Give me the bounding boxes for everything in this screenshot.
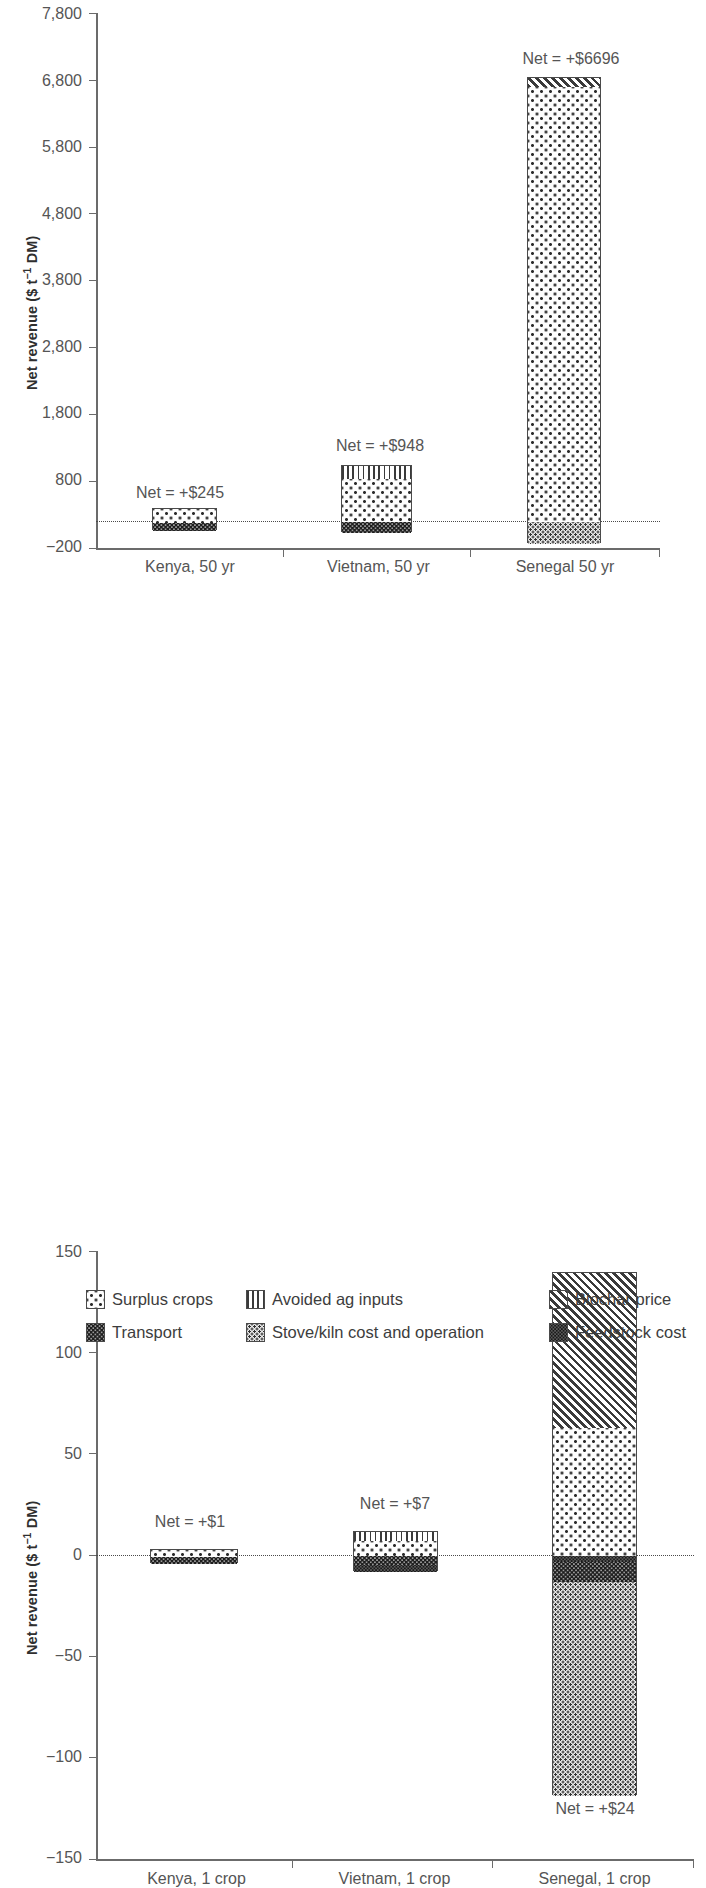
bottom-x-tick-mark: [492, 1860, 493, 1868]
top-bar-kenya: [152, 508, 217, 530]
top-chart-x-axis: [96, 548, 660, 550]
top-x-tick-mark: [470, 549, 471, 557]
top-tick-mark: [89, 213, 96, 214]
bottom-ytick-50: 50: [0, 1445, 82, 1463]
chart-legend: Surplus crops Avoided ag inputs Biochar …: [0, 1290, 706, 1355]
top-net-label-senegal: Net = +$6696: [491, 50, 651, 68]
top-chart-y-axis-label: Net revenue ($ t−1 DM): [22, 236, 40, 390]
top-bar-kenya-segment-surplus-crops: [153, 509, 216, 523]
top-ytick-5800: 5,800: [0, 138, 82, 156]
bottom-tick-mark: [89, 1757, 96, 1758]
top-xtick-label-vietnam: Vietnam, 50 yr: [296, 558, 461, 576]
bottom-bar-vietnam: [353, 1531, 438, 1571]
top-bar-vietnam-segment-surplus-crops: [342, 479, 411, 522]
bottom-tick-mark: [89, 1555, 96, 1556]
bottom-bar-vietnam-segment-feedstock-cost: [354, 1565, 437, 1572]
top-tick-mark: [89, 147, 96, 148]
bottom-x-tick-mark: [292, 1860, 293, 1868]
top-chart: Net revenue ($ t−1 DM) 7,800 6,800 5,800…: [0, 0, 706, 585]
bottom-tick-mark: [89, 1859, 96, 1860]
legend-item-avoided-ag-inputs: Avoided ag inputs: [246, 1290, 403, 1309]
top-bar-vietnam-segment-avoided-ag-inputs: [342, 466, 411, 479]
bottom-bar-vietnam-segment-transport: [354, 1556, 437, 1565]
bottom-xtick-label-vietnam: Vietnam, 1 crop: [312, 1870, 477, 1888]
bottom-bar-senegal-segment-stove-kiln-cost: [553, 1582, 636, 1796]
top-chart-y-axis: [96, 13, 98, 549]
top-net-label-vietnam: Net = +$948: [310, 437, 450, 455]
y-axis-label-superscript: −1: [22, 1533, 33, 1545]
top-bar-senegal-segment-surplus-crops: [528, 87, 600, 522]
top-bar-senegal-segment-stove-kiln-cost: [528, 522, 600, 544]
bottom-bar-senegal-segment-transport: [553, 1562, 636, 1582]
y-axis-label-suffix: DM): [24, 236, 40, 268]
legend-label-feedstock-cost: Feedstock cost: [575, 1323, 686, 1342]
top-ytick-800: 800: [0, 471, 82, 489]
bottom-chart: Net revenue ($ t−1 DM) 150 100 50 0 −50 …: [0, 615, 706, 1280]
bottom-xtick-label-kenya: Kenya, 1 crop: [114, 1870, 279, 1888]
top-bar-vietnam: [341, 465, 412, 532]
y-axis-label-suffix: DM): [24, 1501, 40, 1533]
top-x-tick-mark: [659, 549, 660, 557]
legend-item-feedstock-cost: Feedstock cost: [549, 1323, 686, 1342]
bottom-bar-kenya-segment-transport: [151, 1557, 237, 1564]
legend-item-transport: Transport: [86, 1323, 182, 1342]
bottom-bar-senegal-segment-surplus-crops: [553, 1428, 636, 1556]
legend-item-surplus-crops: Surplus crops: [86, 1290, 213, 1309]
top-ytick-2800: 2,800: [0, 338, 82, 356]
top-tick-mark: [89, 414, 96, 415]
bottom-x-tick-mark: [693, 1860, 694, 1868]
top-ytick-1800: 1,800: [0, 404, 82, 422]
top-tick-mark: [89, 481, 96, 482]
bottom-chart-x-axis: [96, 1859, 694, 1861]
bottom-bar-kenya-segment-surplus-crops: [151, 1550, 237, 1557]
bottom-net-label-vietnam: Net = +$7: [335, 1495, 455, 1513]
bottom-ytick-0: 0: [0, 1546, 82, 1564]
top-xtick-label-senegal: Senegal 50 yr: [485, 558, 645, 576]
transport-swatch-icon: [86, 1323, 105, 1342]
feedstock-cost-swatch-icon: [549, 1323, 568, 1342]
legend-label-transport: Transport: [112, 1323, 182, 1342]
top-ytick-3800: 3,800: [0, 271, 82, 289]
bottom-ytick-150: 150: [0, 1243, 82, 1261]
top-ytick-6800: 6,800: [0, 72, 82, 90]
bottom-tick-mark: [89, 1453, 96, 1454]
legend-label-avoided-ag-inputs: Avoided ag inputs: [272, 1290, 403, 1309]
top-bar-senegal: [527, 77, 601, 543]
top-tick-mark: [89, 347, 96, 348]
legend-label-surplus-crops: Surplus crops: [112, 1290, 213, 1309]
top-bar-kenya-segment-transport: [153, 523, 216, 531]
top-bar-senegal-segment-biochar-price: [528, 78, 600, 87]
top-ytick-7800: 7,800: [0, 5, 82, 23]
top-ytick-4800: 4,800: [0, 205, 82, 223]
top-ytick--200: −200: [0, 538, 82, 556]
bottom-net-label-kenya: Net = +$1: [130, 1513, 250, 1531]
top-tick-mark: [89, 548, 96, 549]
bottom-ytick--150: −150: [0, 1849, 82, 1867]
legend-item-stove-kiln-cost: Stove/kiln cost and operation: [246, 1323, 484, 1342]
top-tick-mark: [89, 280, 96, 281]
surplus-crops-swatch-icon: [86, 1290, 105, 1309]
bottom-chart-y-axis-label: Net revenue ($ t−1 DM): [22, 1501, 40, 1655]
bottom-net-label-senegal: Net = +$24: [535, 1800, 655, 1818]
bottom-bar-kenya: [150, 1549, 238, 1563]
bottom-ytick--50: −50: [0, 1647, 82, 1665]
bottom-tick-mark: [89, 1656, 96, 1657]
legend-label-stove-kiln-cost: Stove/kiln cost and operation: [272, 1323, 484, 1342]
top-xtick-label-kenya: Kenya, 50 yr: [110, 558, 270, 576]
top-net-label-kenya: Net = +$245: [120, 484, 240, 502]
top-tick-mark: [89, 13, 96, 14]
legend-label-biochar-price: Biochar price: [575, 1290, 671, 1309]
bottom-bar-vietnam-segment-surplus-crops: [354, 1541, 437, 1556]
y-axis-label-prefix: Net revenue ($ t: [24, 280, 40, 390]
stove-kiln-cost-swatch-icon: [246, 1323, 265, 1342]
avoided-ag-inputs-swatch-icon: [246, 1290, 265, 1309]
top-tick-mark: [89, 80, 96, 81]
bottom-ytick--100: −100: [0, 1748, 82, 1766]
top-bar-vietnam-segment-transport: [342, 522, 411, 533]
bottom-tick-mark: [89, 1251, 96, 1252]
bottom-xtick-label-senegal: Senegal, 1 crop: [512, 1870, 677, 1888]
biochar-price-swatch-icon: [549, 1290, 568, 1309]
top-x-tick-mark: [283, 549, 284, 557]
legend-item-biochar-price: Biochar price: [549, 1290, 671, 1309]
bottom-bar-vietnam-segment-avoided-ag-inputs: [354, 1532, 437, 1541]
